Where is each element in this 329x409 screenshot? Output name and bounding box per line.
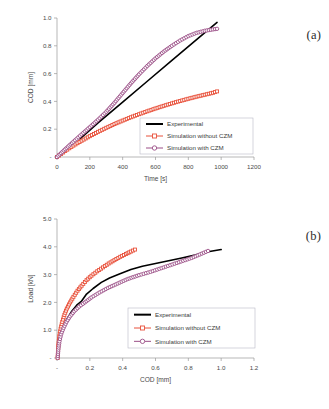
legend: ExperimentalSimulation without CZMSimula…: [128, 308, 255, 348]
y-tick-label: -: [49, 354, 51, 361]
y-tick-label: 1.0: [43, 14, 52, 21]
panel-a: (a) -0.20.40.60.81.002004006008001000120…: [0, 0, 329, 204]
x-tick-label: 1.0: [217, 364, 226, 371]
y-tick-label: 0.4: [43, 98, 52, 105]
y-axis-title: COD [mm]: [27, 72, 35, 103]
x-tick-label: 400: [118, 163, 129, 170]
x-tick-label: 1000: [214, 163, 228, 170]
panel-b-label: (b): [306, 229, 321, 244]
series-marker: [133, 248, 136, 251]
x-tick-label: 0: [55, 163, 59, 170]
legend-label-3: Simulation with CZM: [155, 338, 212, 345]
x-tick-label: 0.2: [86, 364, 95, 371]
legend-label-1: Experimental: [167, 120, 203, 127]
x-axis-title: COD [mm]: [140, 376, 171, 384]
legend-label-3: Simulation with CZM: [167, 144, 224, 151]
x-axis-title: Time [s]: [144, 175, 167, 183]
y-tick-label: 3.0: [43, 271, 52, 278]
x-tick-label: 0.4: [118, 364, 127, 371]
y-tick-label: 0.2: [43, 125, 52, 132]
x-tick-label: -: [56, 364, 58, 371]
x-tick-label: 800: [183, 163, 194, 170]
y-tick-label: 5.0: [43, 215, 52, 222]
y-axis-title: Load [kN]: [27, 274, 35, 302]
x-tick-label: 1.2: [250, 364, 259, 371]
y-tick-label: 0.8: [43, 42, 52, 49]
panel-a-label: (a): [307, 28, 321, 43]
y-tick-label: 0.6: [43, 70, 52, 77]
x-tick-label: 0.6: [151, 364, 160, 371]
series-marker: [215, 27, 218, 30]
legend-label-2: Simulation without CZM: [167, 132, 232, 139]
legend-marker-3: [140, 339, 144, 343]
y-tick-label: -: [49, 153, 51, 160]
x-tick-label: 200: [85, 163, 96, 170]
x-tick-label: 0.8: [184, 364, 193, 371]
legend-marker-2: [141, 326, 145, 330]
y-tick-label: 4.0: [43, 243, 52, 250]
panel-b: (b) -1.02.03.04.05.0-0.20.40.60.81.01.2C…: [0, 203, 329, 407]
series-2: [56, 248, 136, 359]
figure-container: (a) -0.20.40.60.81.002004006008001000120…: [0, 0, 329, 409]
series-marker: [216, 90, 219, 93]
legend-marker-2: [153, 134, 157, 138]
legend: ExperimentalSimulation without CZMSimula…: [140, 118, 253, 154]
series-marker: [206, 249, 209, 252]
legend-label-1: Experimental: [155, 311, 191, 318]
legend-marker-3: [152, 146, 156, 150]
x-tick-label: 1200: [247, 163, 261, 170]
chart-b: -1.02.03.04.05.0-0.20.40.60.81.01.2COD […: [0, 203, 329, 409]
y-tick-label: 2.0: [43, 299, 52, 306]
y-tick-label: 1.0: [43, 326, 52, 333]
legend-label-2: Simulation without CZM: [155, 324, 220, 331]
x-tick-label: 600: [150, 163, 161, 170]
chart-a: -0.20.40.60.81.0020040060080010001200Tim…: [0, 0, 329, 204]
